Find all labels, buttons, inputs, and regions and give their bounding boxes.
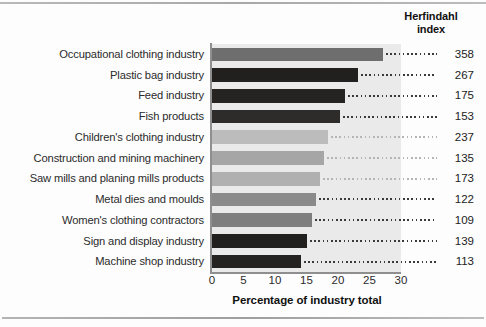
herfindahl-index-header: Herfindahl index [388, 10, 474, 36]
leader-line [331, 136, 437, 138]
leader-line [323, 178, 437, 180]
leader-line [386, 53, 437, 55]
leader-line [348, 95, 437, 97]
bar [212, 193, 316, 207]
bar [212, 255, 301, 269]
herfindahl-value: 267 [440, 65, 474, 86]
herfindahl-value: 113 [440, 251, 474, 272]
chart-figure: Herfindahl index Occupational clothing i… [0, 0, 486, 327]
bar [212, 172, 320, 186]
category-label: Machine shop industry [0, 251, 204, 272]
bar [212, 213, 312, 227]
bar [212, 48, 383, 62]
bar [212, 234, 307, 248]
leader-line [304, 261, 437, 263]
category-label: Metal dies and moulds [0, 189, 204, 210]
x-tick-label: 0 [197, 274, 227, 286]
plot-area: Occupational clothing industry358Plastic… [0, 44, 486, 272]
herfindahl-value: 175 [440, 85, 474, 106]
herfindahl-value: 237 [440, 127, 474, 148]
chart-row: Machine shop industry113 [0, 251, 486, 272]
chart-row: Sign and display industry139 [0, 231, 486, 252]
header-line-2: index [388, 23, 474, 36]
leader-line [315, 219, 437, 221]
x-tick-label: 10 [260, 274, 290, 286]
category-label: Plastic bag industry [0, 65, 204, 86]
x-tick-label: 20 [323, 274, 353, 286]
herfindahl-value: 122 [440, 189, 474, 210]
header-line-1: Herfindahl [388, 10, 474, 23]
leader-line [310, 240, 437, 242]
herfindahl-value: 109 [440, 210, 474, 231]
herfindahl-value: 135 [440, 148, 474, 169]
category-label: Feed industry [0, 85, 204, 106]
x-axis-ticks: 051015202530 [0, 274, 486, 288]
leader-line [319, 198, 437, 200]
x-tick-label: 25 [355, 274, 385, 286]
chart-row: Fish products153 [0, 106, 486, 127]
chart-row: Occupational clothing industry358 [0, 44, 486, 65]
bar [212, 89, 345, 103]
category-label: Saw mills and planing mills products [0, 168, 204, 189]
chart-row: Feed industry175 [0, 85, 486, 106]
bar [212, 110, 340, 124]
x-axis-title: Percentage of industry total [212, 294, 402, 306]
bar [212, 151, 324, 165]
category-label: Fish products [0, 106, 204, 127]
leader-line [327, 157, 437, 159]
category-label: Construction and mining machinery [0, 148, 204, 169]
category-label: Children's clothing industry [0, 127, 204, 148]
herfindahl-value: 358 [440, 44, 474, 65]
category-label: Sign and display industry [0, 231, 204, 252]
category-label: Occupational clothing industry [0, 44, 204, 65]
x-tick-label: 15 [292, 274, 322, 286]
bar [212, 130, 328, 144]
chart-row: Plastic bag industry267 [0, 65, 486, 86]
chart-row: Children's clothing industry237 [0, 127, 486, 148]
chart-row: Metal dies and moulds122 [0, 189, 486, 210]
bar [212, 68, 358, 82]
bar-rows: Occupational clothing industry358Plastic… [0, 44, 486, 272]
chart-row: Women's clothing contractors109 [0, 210, 486, 231]
x-tick-label: 5 [229, 274, 259, 286]
category-label: Women's clothing contractors [0, 210, 204, 231]
leader-line [361, 74, 437, 76]
herfindahl-value: 173 [440, 168, 474, 189]
x-tick-label: 30 [386, 274, 416, 286]
chart-row: Construction and mining machinery135 [0, 148, 486, 169]
bottom-rule [2, 317, 484, 319]
top-rule [0, 2, 486, 4]
leader-line [343, 116, 437, 118]
chart-row: Saw mills and planing mills products173 [0, 168, 486, 189]
herfindahl-value: 139 [440, 231, 474, 252]
herfindahl-value: 153 [440, 106, 474, 127]
